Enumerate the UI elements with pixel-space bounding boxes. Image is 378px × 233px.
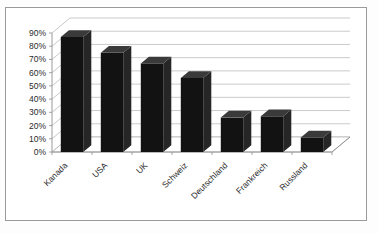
y-axis-tick-label: 50% (29, 81, 46, 91)
x-axis-category-label: UK (134, 160, 150, 176)
bar (181, 71, 212, 152)
x-axis-labels: KanadaUSAUKSchweizDeutschlandFrankreichR… (42, 160, 310, 201)
bar-front-face (261, 116, 283, 152)
y-axis-tick-label: 90% (29, 28, 46, 38)
y-axis-tick-label: 40% (29, 94, 46, 104)
x-axis-category-label: Deutschland (189, 160, 230, 201)
y-axis-tick-label: 10% (29, 134, 46, 144)
bar-side-face (83, 30, 91, 152)
x-axis-category-label: Kanada (42, 160, 70, 188)
bar (261, 110, 292, 152)
bar-front-face (101, 53, 123, 152)
x-axis-category-label: Schweiz (160, 160, 189, 189)
bar-side-face (163, 57, 171, 152)
bar (61, 30, 92, 152)
bar-front-face (221, 118, 243, 152)
y-axis-labels: 0%10%20%30%40%50%60%70%80%90% (29, 28, 46, 157)
y-axis-tick-label: 30% (29, 107, 46, 117)
x-axis-category-label: Frankreich (234, 160, 270, 196)
x-axis-category-label: USA (90, 160, 110, 180)
bar-front-face (301, 137, 323, 152)
bar-chart-plot: 0%10%20%30%40%50%60%70%80%90% KanadaUSAU… (0, 0, 378, 233)
bar-side-face (283, 110, 291, 152)
y-axis-tick-label: 80% (29, 41, 46, 51)
y-axis-tick-label: 20% (29, 121, 46, 131)
bar (141, 57, 172, 152)
grid-depth-line (52, 18, 70, 33)
bar-front-face (141, 63, 163, 152)
bars-group (61, 30, 332, 152)
bar-front-face (61, 37, 83, 152)
bar (221, 111, 252, 152)
y-axis-tick-label: 0% (34, 147, 47, 157)
y-axis-tick-label: 60% (29, 68, 46, 78)
chart-container: 0%10%20%30%40%50%60%70%80%90% KanadaUSAU… (0, 0, 378, 233)
bar (301, 131, 332, 152)
y-axis-tick-label: 70% (29, 54, 46, 64)
bar (101, 46, 132, 152)
bar-side-face (243, 111, 251, 152)
bar-side-face (203, 71, 211, 152)
x-axis-category-label: Russland (277, 160, 309, 192)
bar-side-face (123, 46, 131, 152)
bar-front-face (181, 78, 203, 152)
